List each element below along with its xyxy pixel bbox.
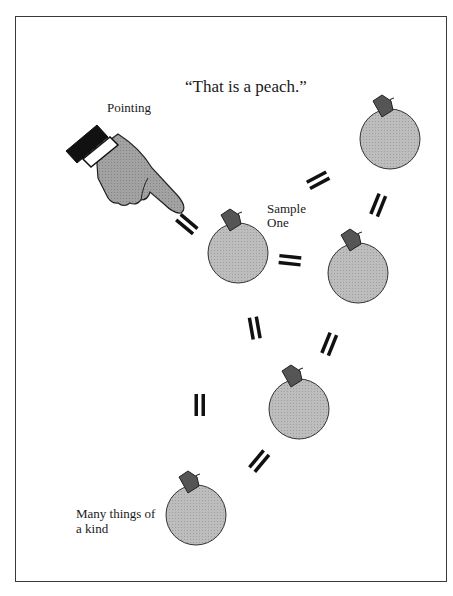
peach-icon [269,365,329,439]
equals-icon [278,254,301,267]
equals-icon [248,449,270,473]
peach-icon [166,471,226,545]
peach-icon [328,229,388,303]
many-things-label: Many things of a kind [76,506,166,536]
sample-label-line1: Sample [267,202,327,216]
peach-icon [360,95,420,169]
many-label-line2: a kind [76,521,166,536]
equals-icon [248,316,262,339]
equals-icon [369,193,387,217]
sample-one-label: Sample One [267,202,327,230]
equals-icon [175,213,199,235]
equals-icon [306,170,330,190]
many-label-line1: Many things of [76,506,166,521]
sample-label-line2: One [267,216,327,230]
equals-icon [195,394,206,416]
pointing-label: Pointing [107,100,151,116]
peach-sample-one-icon [208,209,268,283]
equals-icon [320,332,338,356]
pointing-hand-icon [66,125,184,213]
caption-title: “That is a peach.” [185,77,307,97]
